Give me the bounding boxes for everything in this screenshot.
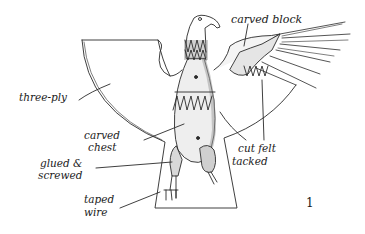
label-cut-felt-2: tacked <box>232 156 268 167</box>
leader-cut-felt <box>220 112 246 140</box>
figure-number: 1 <box>306 196 314 210</box>
leader-glued <box>96 162 172 168</box>
label-taped-wire-2: wire <box>84 207 108 218</box>
label-glued-2: screwed <box>38 170 82 181</box>
label-cut-felt: cut felt <box>238 143 276 154</box>
label-carved-chest-2: chest <box>88 142 116 153</box>
leader-taped-wire <box>120 192 160 208</box>
label-three-ply: three-ply <box>19 92 67 103</box>
label-carved-chest: carved <box>84 130 120 141</box>
label-glued: glued & <box>40 158 82 169</box>
label-carved-block: carved block <box>231 14 302 25</box>
label-taped-wire: taped <box>84 194 114 205</box>
